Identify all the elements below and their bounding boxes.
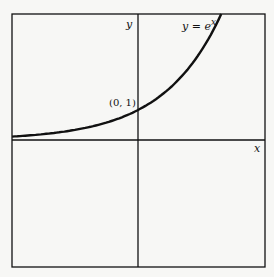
x-axis-label: x <box>254 142 261 155</box>
y-axis-label: y <box>125 18 133 31</box>
point-label: (0, 1) <box>109 97 136 108</box>
exponential-graph: y x y = ex (0, 1) <box>0 0 274 277</box>
curve-label: y = ex <box>181 17 216 33</box>
